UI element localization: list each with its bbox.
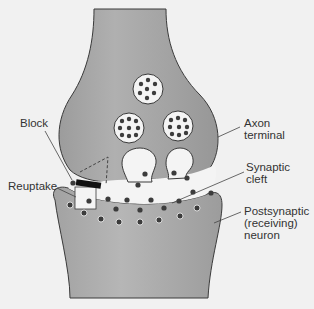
- label-reuptake: Reuptake: [8, 180, 57, 192]
- synapse-illustration: [0, 0, 314, 309]
- vesicle-left: [114, 113, 144, 143]
- synapse-diagram: Block Axon terminal Reuptake Synaptic cl…: [0, 0, 314, 309]
- releasing-vesicle-1: [122, 148, 156, 182]
- reuptake-transporter: [75, 187, 96, 209]
- label-synaptic-cleft: Synaptic cleft: [246, 161, 290, 185]
- vesicle-right: [163, 111, 193, 141]
- vesicle-top: [133, 74, 163, 104]
- label-block: Block: [20, 117, 48, 129]
- label-axon-terminal: Axon terminal: [244, 117, 285, 141]
- label-postsynaptic-neuron: Postsynaptic (receiving) neuron: [244, 205, 309, 241]
